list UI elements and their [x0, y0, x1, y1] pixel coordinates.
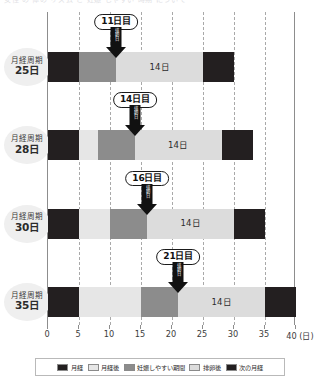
cycle-row-label: 月経周期35日 [4, 283, 50, 321]
legend-label: 次の月経 [239, 363, 263, 372]
x-axis: 0510152025303540 (日) [47, 325, 295, 341]
bar-segment-menstruation [48, 287, 79, 317]
cycle-row-label: 月経周期28日 [4, 126, 50, 164]
segment-duration-label: 14日 [211, 298, 231, 307]
axis-tick-label: 35 [259, 329, 269, 339]
axis-tick-label: 25 [197, 329, 207, 339]
segment-duration-label: 14日 [168, 141, 188, 150]
bar-segment-post_menstruation [79, 209, 110, 239]
segment-duration-label: 14日 [180, 219, 200, 228]
bar-segment-next_menstruation [234, 209, 265, 239]
bar-segment-next_menstruation [222, 130, 253, 160]
ovulation-arrow-head-icon [106, 47, 126, 58]
cycle-row-label-length: 25日 [15, 65, 39, 77]
stacked-bar: 14日 [48, 209, 296, 239]
ovulation-arrow-text: 排卵日 [133, 106, 137, 118]
axis-tick-label: 20 [166, 329, 176, 339]
bar-segment-menstruation [48, 209, 79, 239]
legend-item: 月経 [57, 363, 82, 372]
stacked-bar: 14日 [48, 130, 296, 160]
legend-item: 排卵後 [189, 363, 220, 372]
bar-segment-post_ovulation: 14日 [116, 52, 203, 82]
cycle-row-label-length: 28日 [15, 144, 39, 156]
cycle-row: 月経周期25日14日11日目排卵日 [48, 12, 296, 90]
top-bleed-text: 女性 の 体の リズム と 妊娠 しやすい 時期 について [4, 0, 186, 4]
bar-segment-post_menstruation [79, 287, 141, 317]
cycle-row-label: 月経周期30日 [4, 205, 50, 243]
axis-tick-label: 0 [44, 329, 49, 339]
top-bleed-strip: 女性 の 体の リズム と 妊娠 しやすい 時期 について [0, 0, 320, 9]
bar-segment-post_ovulation: 14日 [135, 130, 222, 160]
axis-tick-label: 40 (日) [286, 329, 313, 341]
bar-segment-next_menstruation [203, 52, 234, 82]
cycle-row: 月経周期30日14日16日目排卵日 [48, 169, 296, 247]
legend-swatch-next_menstruation [226, 364, 237, 371]
segment-duration-label: 14日 [149, 63, 169, 72]
ovulation-arrow-text: 排卵日 [176, 263, 180, 275]
bar-segment-next_menstruation [265, 287, 296, 317]
chart-legend: 月経月経後妊娠しやすい期間排卵後次の月経 [35, 358, 285, 376]
bar-segment-post_menstruation [79, 130, 98, 160]
stacked-bar: 14日 [48, 52, 296, 82]
axis-tick-label: 15 [135, 329, 145, 339]
ovulation-arrow-head-icon [137, 204, 157, 215]
cycle-row: 月経周期28日14日14日目排卵日 [48, 90, 296, 168]
ovulation-arrow-head-icon [125, 125, 145, 136]
legend-label: 妊娠しやすい期間 [137, 363, 184, 372]
legend-swatch-menstruation [57, 364, 68, 371]
ovulation-arrow-shaft: 排卵日 [111, 27, 122, 47]
cycle-row-label-length: 35日 [15, 300, 39, 312]
bar-segment-menstruation [48, 52, 79, 82]
cycle-row-label-length: 30日 [15, 222, 39, 234]
axis-tick-label: 5 [75, 329, 80, 339]
legend-label: 排卵後 [203, 363, 221, 372]
cycle-row-label: 月経周期25日 [4, 48, 50, 86]
legend-label: 月経後 [101, 363, 119, 372]
bar-segment-post_ovulation: 14日 [147, 209, 234, 239]
legend-swatch-post_menstruation [88, 364, 99, 371]
ovulation-arrow-head-icon [168, 282, 188, 293]
axis-tick-label: 10 [104, 329, 114, 339]
legend-item: 月経後 [88, 363, 119, 372]
legend-item: 次の月経 [226, 363, 263, 372]
ovulation-arrow-shaft: 排卵日 [142, 184, 153, 204]
ovulation-arrow-text: 排卵日 [145, 185, 149, 197]
legend-swatch-fertile_window [124, 364, 135, 371]
cycle-row: 月経周期35日14日21日目排卵日 [48, 247, 296, 325]
legend-swatch-post_ovulation [189, 364, 200, 371]
chart-plot-area: 月経周期25日14日11日目排卵日月経周期28日14日14日目排卵日月経周期30… [47, 12, 295, 325]
legend-item: 妊娠しやすい期間 [124, 363, 185, 372]
bar-segment-menstruation [48, 130, 79, 160]
axis-tick-label: 30 [228, 329, 238, 339]
ovulation-arrow-shaft: 排卵日 [129, 105, 140, 125]
legend-label: 月経 [71, 363, 83, 372]
ovulation-arrow-text: 排卵日 [114, 28, 118, 40]
ovulation-arrow-shaft: 排卵日 [173, 262, 184, 282]
bar-segment-post_ovulation: 14日 [178, 287, 265, 317]
